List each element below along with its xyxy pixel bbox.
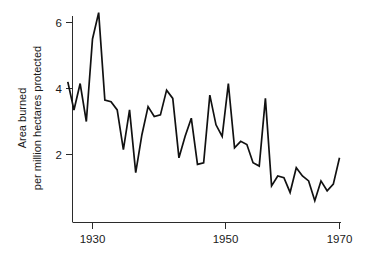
x-tick-label-1930: 1930 xyxy=(80,233,106,245)
y-tick-label-6: 6 xyxy=(56,17,62,29)
x-tick-label-1970: 1970 xyxy=(327,233,353,245)
y-axis-group: 6 4 2 xyxy=(56,16,73,222)
x-tick-1930: 1930 xyxy=(80,223,106,246)
y-tick-2: 2 xyxy=(56,149,73,161)
y-tick-label-4: 4 xyxy=(56,83,63,95)
y-tick-label-2: 2 xyxy=(56,149,62,161)
chart-figure: 6 4 2 1930 1950 1970 xyxy=(0,0,372,262)
y-tick-6: 6 xyxy=(56,17,73,29)
x-axis-group: 1930 1950 1970 xyxy=(73,223,353,246)
y-axis-title-group: Area burned per million hectares protect… xyxy=(16,46,43,190)
x-tick-label-1950: 1950 xyxy=(213,233,239,245)
y-axis-title-line2: per million hectares protected xyxy=(31,46,43,190)
y-axis-title-line1: Area burned xyxy=(16,88,28,149)
x-tick-1970: 1970 xyxy=(327,223,353,246)
x-tick-1950: 1950 xyxy=(213,223,239,246)
data-series-line xyxy=(68,13,340,201)
line-chart-svg: 6 4 2 1930 1950 1970 xyxy=(0,0,372,262)
